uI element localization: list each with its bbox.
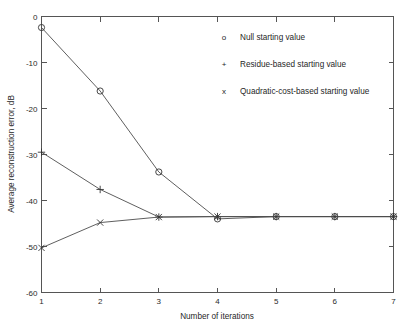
data-series: [38, 24, 396, 222]
legend-marker-cross-icon: x: [222, 87, 226, 96]
series-polyline: [42, 28, 394, 219]
y-tick-label: -40: [26, 197, 38, 206]
data-series-layer: [38, 24, 397, 251]
data-series: [38, 149, 397, 221]
y-tick-label: -20: [26, 105, 38, 114]
y-tick-label: -30: [26, 151, 38, 160]
legend-marker-circle-icon: o: [222, 33, 227, 42]
figure-container: 0-10-20-30-40-50-60 1234567 Number of it…: [0, 0, 414, 327]
legend-label: Quadratic-cost-based starting value: [240, 87, 370, 96]
x-tick-label: 5: [274, 297, 279, 306]
x-tick-label: 6: [333, 297, 338, 306]
x-tick-label: 4: [215, 297, 220, 306]
legend-label: Residue-based starting value: [240, 60, 346, 69]
legend-label: Null starting value: [240, 33, 306, 42]
x-tick-label: 3: [157, 297, 162, 306]
convergence-line-chart: 0-10-20-30-40-50-60 1234567 Number of it…: [0, 0, 414, 327]
y-axis-title: Average reconstruction error, dB: [7, 95, 16, 213]
x-tick-label: 7: [391, 297, 396, 306]
y-tick-label: -50: [26, 243, 38, 252]
legend-marker-plus-icon: +: [222, 60, 227, 69]
series-polyline: [42, 217, 394, 248]
legend-entry: xQuadratic-cost-based starting value: [222, 87, 370, 96]
y-tick-label: 0: [33, 13, 38, 22]
plot-frame: [42, 17, 394, 293]
plot-axes: [42, 17, 394, 293]
series-polyline: [42, 152, 394, 217]
legend-entry: oNull starting value: [222, 33, 306, 42]
y-axis-ticks: 0-10-20-30-40-50-60: [26, 13, 394, 298]
legend: oNull starting value+Residue-based start…: [222, 33, 370, 96]
x-tick-label: 1: [39, 297, 44, 306]
y-tick-label: -10: [26, 59, 38, 68]
legend-entry: +Residue-based starting value: [222, 60, 347, 69]
x-axis-title: Number of iterations: [180, 312, 254, 321]
x-tick-label: 2: [98, 297, 103, 306]
y-tick-label: -60: [26, 289, 38, 298]
